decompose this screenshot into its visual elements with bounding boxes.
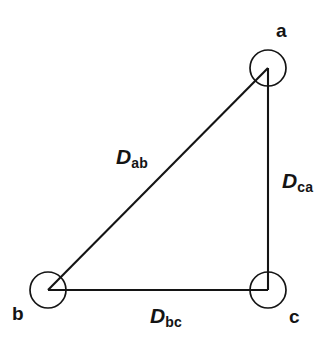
edge-symbol-d-ca: D [282, 169, 297, 192]
edge-subscript-ab: ab [131, 155, 148, 171]
edge-label-d-bc: Dbc [150, 305, 182, 326]
triangle-distance-diagram: a b c Dab Dca Dbc [0, 0, 329, 350]
node-label-b: b [12, 304, 24, 323]
diagram-canvas [0, 0, 329, 350]
edge-group [48, 68, 268, 290]
edge-subscript-ca: ca [297, 179, 313, 195]
edge-line-ab [48, 68, 268, 290]
edge-label-d-ab: Dab [116, 146, 148, 167]
edge-label-d-ca: Dca [282, 170, 313, 191]
node-label-a: a [276, 21, 287, 40]
node-label-c: c [289, 307, 300, 326]
edge-symbol-d-bc: D [150, 304, 165, 327]
edge-symbol-d-ab: D [116, 145, 131, 168]
edge-subscript-bc: bc [165, 314, 182, 330]
